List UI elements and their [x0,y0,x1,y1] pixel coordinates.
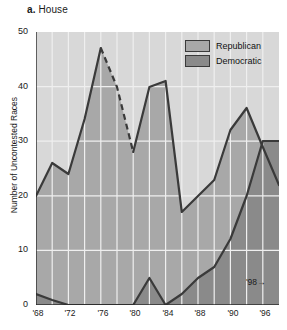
annotation-98-text: '98 [246,277,257,287]
x-tick-76: '76 [97,308,108,318]
x-tick-80: '80 [129,308,140,318]
x-tick-84: '84 [162,308,173,318]
legend-swatch-republican [185,40,210,52]
x-tick-68: '68 [32,308,43,318]
legend-swatch-democratic [185,55,210,67]
legend-item-republican: Republican [185,40,262,52]
chart-figure: a. House Number of Uncontested Races 0 1… [0,0,287,330]
x-tick-96: '96 [259,308,270,318]
x-tick-72: '72 [64,308,75,318]
x-tick-92: '90 [227,308,238,318]
annotation-98-arrow: → [257,277,266,287]
annotation-98: '98→ [246,277,266,287]
legend-label-republican: Republican [216,40,261,52]
chart-legend: Republican Democratic [185,40,262,70]
x-tick-88: '88 [194,308,205,318]
legend-item-democratic: Democratic [185,55,262,67]
legend-label-democratic: Democratic [216,55,262,67]
